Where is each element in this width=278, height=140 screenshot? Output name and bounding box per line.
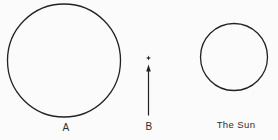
circle-star-a [8,4,121,117]
label-star-a: A [62,123,69,133]
label-the-sun: The Sun [217,120,256,130]
arrow-head-up-icon [146,65,151,72]
label-star-b: B [145,122,152,132]
circle-sun [201,24,268,91]
star-b-marker [146,56,151,61]
star-size-comparison-diagram: A B The Sun [0,0,278,140]
